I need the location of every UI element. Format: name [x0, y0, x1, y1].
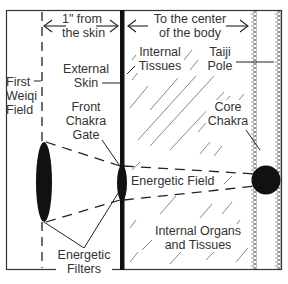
label-gate: Gate — [64, 128, 108, 142]
label-energetic-field: Energetic Field — [131, 174, 219, 188]
label-first: First — [6, 75, 36, 89]
label-internal-organs-line2: and Tissues — [152, 238, 244, 252]
label-pole: Pole — [204, 59, 236, 73]
label-internal-tissues: Internal Tissues — [136, 45, 184, 73]
label-filters: Filters — [56, 262, 112, 276]
label-taiji-pole: Taiji Pole — [204, 45, 236, 73]
front-chakra-ellipse — [117, 165, 127, 201]
label-energetic-field-text: Energetic Field — [131, 174, 214, 188]
label-energetic: Energetic — [56, 248, 112, 262]
label-internal: Internal — [136, 45, 184, 59]
label-skin: Skin — [60, 76, 112, 90]
label-internal-organs: Internal Organs and Tissues — [152, 224, 244, 252]
label-to-center-line2: of the body — [148, 26, 232, 40]
label-weiqi: Weiqi — [6, 89, 36, 103]
taiji-pole-chain — [251, 11, 257, 269]
outer-chain — [275, 11, 281, 269]
label-distance: 1" from the skin — [62, 12, 100, 40]
label-internal-organs-line1: Internal Organs — [152, 224, 244, 238]
label-distance-line2: the skin — [62, 26, 100, 40]
diagram-canvas: 1" from the skin To the center of the bo… — [0, 0, 288, 284]
label-distance-line1: 1" from — [62, 12, 100, 26]
diagram-graphics — [0, 0, 288, 284]
label-field: Field — [6, 103, 36, 117]
label-to-center: To the center of the body — [148, 12, 232, 40]
label-tissues: Tissues — [136, 59, 184, 73]
label-taiji: Taiji — [204, 45, 236, 59]
label-chakra: Chakra — [64, 114, 108, 128]
first-weiqi-ellipse — [36, 142, 52, 222]
external-skin-line — [120, 10, 125, 270]
label-first-weiqi-field: First Weiqi Field — [6, 75, 36, 117]
label-core-chakra-word: Chakra — [206, 114, 250, 128]
label-external: External — [60, 62, 112, 76]
core-chakra-circle — [252, 166, 281, 195]
label-core-chakra: Core Chakra — [206, 100, 250, 128]
label-front: Front — [64, 100, 108, 114]
label-front-chakra-gate: Front Chakra Gate — [64, 100, 108, 142]
label-to-center-line1: To the center — [148, 12, 232, 26]
label-energetic-filters: Energetic Filters — [56, 248, 112, 276]
label-external-skin: External Skin — [60, 62, 112, 90]
label-core: Core — [206, 100, 250, 114]
